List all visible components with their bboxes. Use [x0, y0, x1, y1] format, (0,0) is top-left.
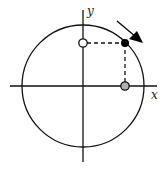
x-projection-point — [121, 82, 129, 90]
point-on-circle — [121, 39, 129, 47]
clockwise-arrow-icon — [117, 21, 143, 43]
x-axis-label: x — [151, 88, 158, 102]
y-axis-label: y — [86, 4, 94, 18]
unit-circle-diagram: x y — [0, 0, 166, 173]
y-projection-point — [79, 39, 87, 47]
